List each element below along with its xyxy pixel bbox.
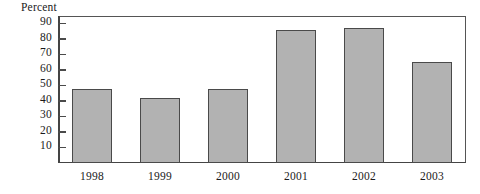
- y-tick-mark: [58, 23, 66, 25]
- bar-1999: [140, 98, 180, 163]
- y-tick-label: 80: [16, 31, 52, 43]
- bar-2003: [412, 62, 452, 163]
- y-tick-mark: [58, 85, 66, 87]
- y-tick-label: 60: [16, 62, 52, 74]
- bar-2002: [344, 28, 384, 163]
- y-tick-label: 20: [16, 124, 52, 136]
- y-tick-label: 10: [16, 139, 52, 151]
- x-tick-label-2003: 2003: [402, 170, 462, 182]
- x-tick-label-2002: 2002: [334, 170, 394, 182]
- y-tick-label: 90: [16, 15, 52, 27]
- x-tick-label-2001: 2001: [266, 170, 326, 182]
- y-tick-label: 30: [16, 108, 52, 120]
- y-tick-label: 50: [16, 77, 52, 89]
- y-tick-mark: [58, 38, 66, 40]
- y-tick-mark: [58, 116, 66, 118]
- x-tick-label-1998: 1998: [62, 170, 122, 182]
- bar-2001: [276, 30, 316, 163]
- y-tick-label: 40: [16, 93, 52, 105]
- bar-chart-figure: Percent 102030405060708090 1998199920002…: [0, 0, 480, 194]
- y-tick-mark: [58, 147, 66, 149]
- y-tick-mark: [58, 131, 66, 133]
- y-tick-mark: [58, 69, 66, 71]
- y-tick-label: 70: [16, 46, 52, 58]
- y-tick-mark: [58, 54, 66, 56]
- y-axis-label: Percent: [21, 1, 57, 13]
- bar-2000: [208, 89, 248, 163]
- x-tick-label-1999: 1999: [130, 170, 190, 182]
- bar-1998: [72, 89, 112, 163]
- y-tick-mark: [58, 100, 66, 102]
- plot-area-frame: [58, 16, 466, 163]
- x-tick-label-2000: 2000: [198, 170, 258, 182]
